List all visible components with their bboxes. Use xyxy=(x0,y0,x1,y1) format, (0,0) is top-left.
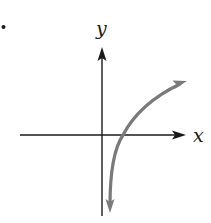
x-axis xyxy=(20,131,186,140)
graph: x y xyxy=(0,0,211,223)
bullet-dot xyxy=(2,25,6,29)
y-axis xyxy=(98,47,107,216)
x-axis-label: x xyxy=(193,124,204,146)
log-curve xyxy=(106,81,188,214)
y-axis-label: y xyxy=(95,17,107,39)
